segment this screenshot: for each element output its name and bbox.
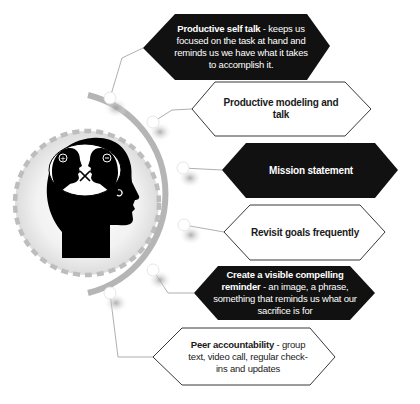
- item-6-separator: -: [274, 339, 282, 350]
- svg-text:+: +: [60, 155, 66, 163]
- item-6: Peer accountability - group text, video …: [186, 332, 310, 382]
- connector-1: [110, 48, 143, 98]
- item-2-title: Productive modeling and talk: [215, 97, 347, 121]
- item-6-title: Peer accountability: [191, 339, 274, 350]
- item-1-title: Productive self talk: [177, 23, 260, 34]
- item-4-title: Revisit goals frequently: [251, 227, 359, 239]
- node-5: [147, 264, 159, 276]
- item-2: Productive modeling and talk: [215, 84, 347, 134]
- node-3: [177, 162, 189, 174]
- node-1: [104, 92, 116, 104]
- item-3: Mission statement: [246, 145, 376, 196]
- item-3-title: Mission statement: [269, 165, 353, 177]
- node-4: [178, 219, 190, 231]
- node-6: [104, 287, 116, 299]
- item-1: Productive self talk - keeps us focused …: [172, 18, 310, 76]
- item-5: Create a visible compelling reminder - a…: [212, 268, 358, 318]
- node-2: [147, 116, 159, 128]
- item-4: Revisit goals frequently: [250, 207, 360, 258]
